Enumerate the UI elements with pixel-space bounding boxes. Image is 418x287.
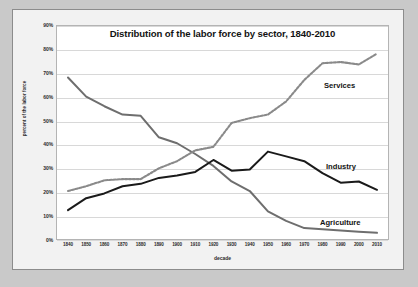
x-tick-label: 1970 — [299, 242, 309, 247]
x-tick-label: 1930 — [227, 242, 237, 247]
y-tick-label: 90% — [43, 22, 53, 28]
gridline — [57, 240, 388, 241]
series-label-industry: Industry — [326, 162, 356, 171]
series-label-services: Services — [324, 81, 355, 90]
x-tick-label: 1980 — [318, 242, 328, 247]
x-tick-label: 1960 — [281, 242, 291, 247]
x-axis-tick-labels: 1840185018601870188018901900191019201930… — [56, 242, 389, 252]
series-line-industry — [68, 152, 377, 211]
x-tick-label: 1840 — [63, 242, 73, 247]
x-tick-label: 1900 — [172, 242, 182, 247]
y-tick-label: 70% — [43, 70, 53, 76]
y-axis-title: percent of the labor force — [22, 77, 27, 141]
y-tick-label: 60% — [43, 94, 53, 100]
x-tick-label: 1880 — [136, 242, 146, 247]
x-tick-label: 2000 — [354, 242, 364, 247]
chart-card: 0%10%20%30%40%50%60%70%80%90% percent of… — [12, 9, 404, 270]
y-tick-label: 10% — [43, 213, 53, 219]
x-tick-label: 2010 — [372, 242, 382, 247]
series-label-agriculture: Agriculture — [320, 218, 361, 227]
chart-inner-frame: 0%10%20%30%40%50%60%70%80%90% percent of… — [13, 10, 403, 269]
x-axis-title: decade — [56, 255, 389, 261]
x-tick-label: 1910 — [190, 242, 200, 247]
series-lines — [56, 25, 389, 240]
x-tick-label: 1950 — [263, 242, 273, 247]
y-tick-label: 30% — [43, 165, 53, 171]
x-tick-label: 1920 — [208, 242, 218, 247]
x-tick-label: 1890 — [154, 242, 164, 247]
x-tick-label: 1870 — [118, 242, 128, 247]
x-tick-label: 1990 — [336, 242, 346, 247]
y-axis-tick-labels: 0%10%20%30%40%50%60%70%80%90% — [27, 25, 55, 240]
y-tick-label: 0% — [46, 237, 53, 243]
y-tick-label: 80% — [43, 46, 53, 52]
series-line-agriculture — [68, 78, 377, 233]
y-tick-label: 20% — [43, 189, 53, 195]
x-tick-label: 1860 — [99, 242, 109, 247]
x-tick-label: 1940 — [245, 242, 255, 247]
y-tick-label: 40% — [43, 141, 53, 147]
y-tick-label: 50% — [43, 118, 53, 124]
x-tick-label: 1850 — [81, 242, 91, 247]
